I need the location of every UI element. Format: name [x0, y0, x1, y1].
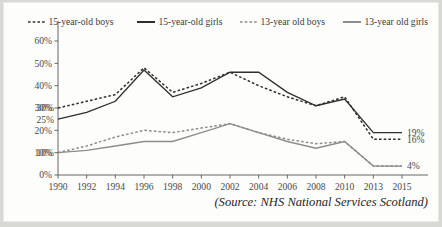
series-line [58, 124, 402, 166]
line-chart: 15-year-old boys15-year-old girls13-year… [4, 3, 438, 221]
y-axis-tick-label: 0% [39, 169, 52, 180]
series-line [58, 124, 402, 166]
chart-figure: 15-year-old boys15-year-old girls13-year… [4, 3, 438, 221]
x-axis-tick-label: 2015 [392, 181, 411, 192]
y-axis-tick-label: 20% [34, 125, 52, 136]
source-caption: (Source: NHS National Services Scotland) [214, 195, 428, 209]
chart-annotations: 30%25%10%19%16%4% [36, 102, 424, 171]
x-axis-tick-label: 2000 [192, 181, 211, 192]
x-axis-tick-label: 2010 [335, 181, 354, 192]
data-point-label: 16% [407, 134, 425, 145]
y-axis-tick-label: 60% [34, 35, 52, 46]
x-axis-tick-label: 1990 [48, 181, 67, 192]
legend-item-label: 13-year old girls [365, 16, 429, 27]
chart-legend: 15-year-old boys15-year-old girls13-year… [28, 16, 428, 27]
x-axis-tick-label: 1996 [134, 181, 153, 192]
chart-axes: 0%10%20%30%40%50%60%19901992199419961998… [34, 21, 428, 192]
y-axis-tick-label: 40% [34, 80, 52, 91]
x-axis-tick-label: 1994 [106, 181, 125, 192]
data-point-label: 10% [36, 147, 54, 158]
data-point-label: 30% [36, 102, 54, 113]
data-point-label: 25% [36, 114, 54, 125]
x-axis-tick-label: 1992 [77, 181, 96, 192]
chart-series [58, 68, 402, 166]
legend-item-label: 13-year old boys [261, 16, 326, 27]
y-axis-tick-label: 50% [34, 58, 52, 69]
x-axis-tick-label: 2004 [249, 181, 268, 192]
x-axis-tick-label: 2013 [364, 181, 383, 192]
x-axis-tick-label: 1998 [163, 181, 182, 192]
x-axis-tick-label: 2008 [306, 181, 325, 192]
data-point-label: 4% [407, 160, 420, 171]
x-axis-tick-label: 2006 [278, 181, 297, 192]
x-axis-tick-label: 2002 [220, 181, 239, 192]
legend-item-label: 15-year-old girls [159, 16, 223, 27]
